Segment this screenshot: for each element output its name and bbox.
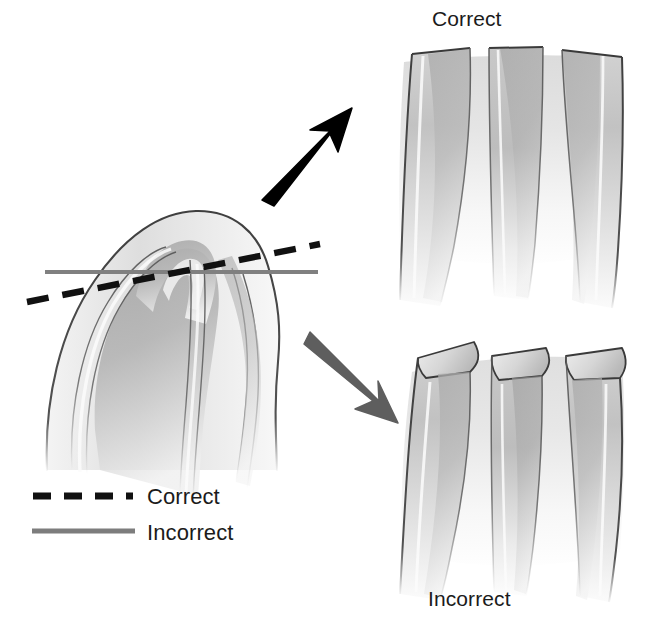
diagram-canvas: Correct Incor [0, 0, 645, 619]
legend-label-incorrect: Incorrect [147, 520, 233, 545]
panel-incorrect: Incorrect [400, 342, 626, 610]
figure-root: Correct Incor [0, 0, 645, 619]
correct-bundle-center-cutedge [489, 47, 543, 48]
correct-panel-label: Correct [432, 7, 502, 30]
incorrect-panel-label: Incorrect [428, 587, 511, 610]
legend-label-correct: Correct [147, 484, 220, 509]
